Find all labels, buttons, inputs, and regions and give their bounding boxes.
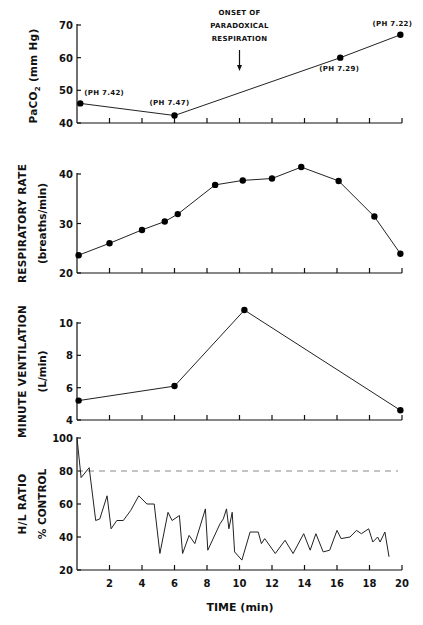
data-point [371,213,377,219]
data-series-line [80,35,400,116]
y-tick-label: 70 [59,20,73,31]
data-point [269,175,275,181]
y-tick-label: 10 [59,318,73,329]
x-tick-label: 10 [233,578,247,589]
data-point [139,227,145,233]
onset-arrow-icon [237,65,242,71]
x-tick-label: 16 [330,578,344,589]
ph-label: (PH 7.42) [84,89,124,97]
y-axis-label: RESPIRATORY RATE [16,164,28,283]
y-tick-label: 20 [59,268,73,279]
y-axis-label: H/L RATIO [16,473,28,534]
onset-annotation: PARADOXICAL [210,22,269,30]
y-axis-unit: (L/min) [36,350,48,392]
y-tick-label: 4 [66,415,73,426]
y-tick-label: 80 [59,466,73,477]
data-point [240,177,246,183]
data-series-line [77,438,389,560]
y-axis-label: PaCO2 (mm Hg) [27,28,42,123]
x-tick-label: 2 [106,578,113,589]
x-tick-label: 4 [139,578,146,589]
y-tick-label: 30 [59,219,73,230]
x-tick-label: 8 [204,578,211,589]
x-tick-label: 20 [395,578,409,589]
x-tick-label: 18 [363,578,377,589]
data-point [75,397,81,403]
data-point [397,250,403,256]
x-axis-title: TIME (min) [206,601,273,614]
y-tick-label: 50 [59,85,73,96]
x-tick-label: 14 [298,578,312,589]
y-tick-label: 40 [59,532,73,543]
y-axis-unit: (breaths/min) [36,183,48,264]
data-point [298,164,304,170]
ph-label: (PH 7.47) [150,99,190,107]
data-point [397,407,403,413]
data-point [77,100,83,106]
y-tick-label: 60 [59,499,73,510]
data-series-line [79,310,401,410]
paco2-panel: 40506070PaCO2 (mm Hg)(PH 7.42)(PH 7.47)(… [27,9,412,129]
y-tick-label: 60 [59,53,73,64]
y-tick-label: 40 [59,169,73,180]
data-point [171,112,177,118]
respiratory-rate-panel: 203040RESPIRATORY RATE(breaths/min) [16,164,404,283]
hl-ratio-panel: 204060801002468101214161820H/L RATIO% CO… [16,433,409,589]
y-tick-label: 6 [66,383,73,394]
data-point [75,252,81,258]
figure: 40506070PaCO2 (mm Hg)(PH 7.42)(PH 7.47)(… [0,0,423,625]
ph-label: (PH 7.29) [319,65,359,73]
data-point [335,178,341,184]
y-tick-label: 20 [59,565,73,576]
data-point [212,182,218,188]
data-series-line [79,167,401,255]
y-axis-label: MINUTE VENTILATION [16,305,28,438]
y-tick-label: 40 [59,118,73,129]
onset-annotation: ONSET OF [219,9,261,17]
data-point [171,383,177,389]
onset-annotation: RESPIRATION [212,35,268,43]
minute-ventilation-panel: 46810MINUTE VENTILATION(L/min) [16,305,404,438]
x-tick-label: 6 [171,578,178,589]
x-tick-label: 12 [265,578,279,589]
data-point [175,211,181,217]
y-axis-unit: % CONTROL [36,468,48,539]
y-tick-label: 8 [66,350,73,361]
data-point [397,32,403,38]
data-point [241,307,247,313]
ph-label: (PH 7.22) [372,20,412,28]
y-tick-label: 100 [52,433,73,444]
chart-svg: 40506070PaCO2 (mm Hg)(PH 7.42)(PH 7.47)(… [0,0,423,625]
data-point [337,54,343,60]
data-point [106,240,112,246]
data-point [162,218,168,224]
